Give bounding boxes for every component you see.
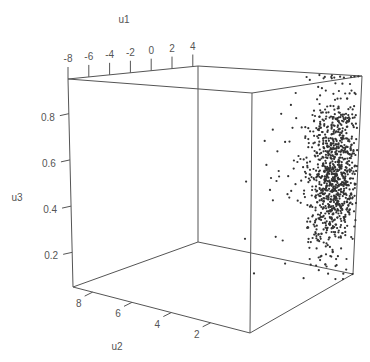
data-point [325,140,327,142]
u1-tick-label: -2 [126,47,135,58]
data-point [311,194,313,196]
data-point [305,176,307,178]
data-point [278,175,280,177]
data-point [329,224,331,226]
data-point [284,263,286,265]
data-point [329,163,331,165]
data-point [295,117,297,119]
data-point [340,190,342,192]
data-point [350,169,352,171]
data-point [317,213,319,215]
u3-tick-label: 0.6 [42,158,56,169]
box-edge [73,287,250,333]
data-point [313,135,315,137]
data-point [319,199,321,201]
data-point [338,120,340,122]
data-point [320,157,322,159]
data-point [344,92,346,94]
data-point [350,76,352,78]
data-point [315,127,317,129]
data-point [347,173,349,175]
data-point [336,98,338,100]
data-point [335,258,337,260]
data-point [306,166,308,168]
data-point [325,222,327,224]
data-point [332,116,334,118]
data-point [350,192,352,194]
data-point [300,180,302,182]
data-point [309,169,311,171]
data-point [331,209,333,211]
data-point [355,170,357,172]
data-point [320,238,322,240]
data-point [326,195,328,197]
data-point [318,144,320,146]
data-point [351,173,353,175]
data-point [332,250,334,252]
data-point [324,134,326,136]
data-point [323,241,325,243]
data-point [319,94,321,96]
data-point [351,154,353,156]
data-point [317,173,319,175]
data-point [333,131,335,133]
data-point [333,133,335,135]
data-point [319,259,321,261]
data-point [340,220,342,222]
u1-tick-label: 2 [169,43,175,54]
u2-tick [203,323,211,327]
data-point [334,174,336,176]
data-point [314,189,316,191]
data-point [337,212,339,214]
data-point [303,158,305,160]
data-point [339,76,341,78]
data-point [338,111,340,113]
data-point [331,148,333,150]
data-point [345,137,347,139]
data-point [343,144,345,146]
data-point [319,214,321,216]
data-point [340,97,342,99]
u2-tick-label: 2 [194,329,200,340]
data-point [332,105,334,107]
data-point [336,210,338,212]
data-point [320,177,322,179]
data-point [295,92,297,94]
data-point [350,202,352,204]
data-point [350,149,352,151]
box-edge [73,242,198,287]
data-point [319,256,321,258]
data-point [343,77,345,79]
data-point [325,253,327,255]
data-point [328,213,330,215]
u3-tick-label: 0.2 [44,250,58,261]
data-point [307,146,309,148]
data-point [322,131,324,133]
data-point [339,198,341,200]
u3-axis-label: u3 [11,192,23,203]
data-point [343,193,345,195]
data-point [318,134,320,136]
data-point [317,234,319,236]
data-point [322,140,324,142]
data-point [352,238,354,240]
data-point [276,150,278,152]
data-point [323,147,325,149]
data-point [324,264,326,266]
data-point [324,160,326,162]
data-point [322,206,324,208]
data-point [307,241,309,243]
data-point [333,109,335,111]
data-point [314,142,316,144]
data-point [348,140,350,142]
data-point [354,184,356,186]
data-point [345,117,347,119]
data-point [332,213,334,215]
data-point [315,185,317,187]
data-point [306,162,308,164]
data-point [343,201,345,203]
data-point [326,126,328,128]
data-point [340,205,342,207]
data-point [350,146,352,148]
data-point [336,217,338,219]
